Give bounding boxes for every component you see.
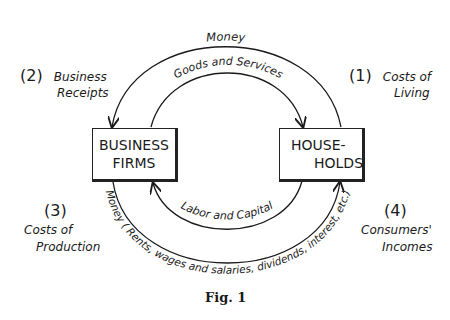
business-firms-line1: BUSINESS: [93, 136, 175, 154]
flow-arrows: Money Goods and Services Labor and Capit…: [0, 0, 450, 320]
label-2-line1: Business: [54, 70, 107, 84]
label-1-line2: Living: [394, 86, 430, 100]
goods-services-label: Goods and Services: [171, 55, 285, 82]
business-firms-line2: FIRMS: [93, 154, 175, 172]
label-1-line1: Costs of: [383, 70, 431, 84]
label-1-number: (1): [349, 66, 372, 85]
goods-services-arc: [151, 73, 303, 127]
households-line2: HOLDS: [280, 154, 362, 172]
label-4-line1: Consumers': [361, 223, 432, 237]
label-4-number: (4): [384, 201, 407, 220]
labor-capital-label: Labor and Capital: [179, 199, 275, 223]
label-costs-of-living: (1) Costs of: [349, 66, 431, 85]
label-3-line2: Production: [36, 240, 100, 254]
money-label-top: Money: [206, 29, 246, 44]
households-node: HOUSE- HOLDS: [279, 128, 365, 182]
label-business-receipts: (2) Business: [20, 66, 107, 85]
label-4-line2: Incomes: [382, 240, 432, 254]
label-2-line2: Receipts: [57, 86, 109, 100]
business-firms-node: BUSINESS FIRMS: [92, 128, 178, 182]
households-line1: HOUSE-: [280, 136, 362, 154]
label-2-number: (2): [20, 66, 43, 85]
label-3-line1: Costs of: [24, 223, 72, 237]
label-3-number: (3): [44, 201, 67, 220]
figure-caption: Fig. 1: [205, 290, 246, 305]
